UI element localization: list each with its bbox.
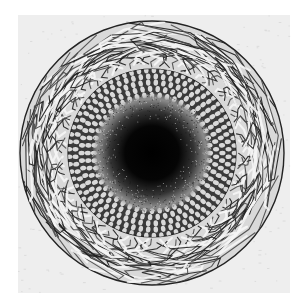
paper-speck (18, 271, 20, 272)
stipple-dot (125, 178, 126, 179)
stipple-dot (172, 178, 173, 179)
stipple-dot (184, 107, 185, 108)
stipple-dot (116, 129, 117, 130)
stipple-dot (190, 136, 191, 137)
stipple-dot (102, 131, 103, 132)
stipple-dot (154, 105, 155, 106)
stipple-dot (168, 207, 169, 208)
stipple-dot (194, 111, 195, 112)
paper-speck (242, 268, 245, 269)
stipple-dot (107, 116, 108, 117)
stipple-dot (206, 129, 207, 130)
stipple-dot (200, 163, 201, 164)
stipple-dot (104, 186, 105, 187)
stipple-dot (134, 199, 135, 200)
stipple-dot (161, 96, 162, 97)
stipple-dot (137, 122, 138, 123)
stipple-dot (200, 179, 201, 180)
stipple-dot (117, 145, 118, 146)
stipple-dot (178, 203, 179, 204)
stipple-dot (99, 129, 100, 130)
stipple-dot (104, 134, 105, 135)
stipple-dot (121, 140, 122, 141)
stipple-dot (113, 116, 114, 117)
stipple-dot (159, 201, 160, 202)
stipple-dot (153, 97, 154, 98)
stipple-dot (122, 128, 123, 129)
stipple-dot (114, 113, 115, 114)
stipple-dot (157, 203, 158, 204)
stipple-dot (181, 106, 182, 107)
stipple-dot (108, 121, 109, 122)
stipple-dot (168, 105, 169, 106)
stipple-dot (124, 116, 125, 117)
stipple-dot (189, 176, 190, 177)
stipple-dot (164, 110, 165, 111)
stipple-dot (134, 210, 135, 211)
stipple-dot (165, 117, 166, 118)
stipple-dot (139, 123, 140, 124)
stipple-dot (113, 155, 114, 156)
stipple-dot (99, 165, 100, 166)
stipple-dot (123, 110, 124, 111)
stipple-dot (145, 211, 146, 212)
stipple-dot (130, 102, 131, 103)
stipple-dot (145, 201, 146, 202)
stipple-dot (181, 116, 182, 117)
stipple-dot (133, 204, 134, 205)
stipple-dot (96, 153, 97, 154)
stipple-dot (111, 158, 112, 159)
stipple-dot (209, 159, 210, 160)
stipple-dot (131, 190, 132, 191)
stipple-dot (112, 148, 113, 149)
stipple-dot (109, 116, 110, 117)
stipple-dot (207, 167, 208, 168)
stipple-dot (106, 134, 107, 135)
stipple-dot (182, 197, 183, 198)
stipple-dot (193, 181, 194, 182)
stipple-dot (116, 157, 117, 158)
stipple-dot (169, 116, 170, 117)
stipple-dot (103, 176, 104, 177)
stipple-dot (134, 196, 135, 197)
stipple-dot (105, 138, 106, 139)
stipple-dot (143, 209, 144, 210)
stipple-dot (188, 130, 189, 131)
stipple-dot (145, 102, 146, 103)
stipple-dot (209, 145, 210, 146)
stipple-dot (144, 210, 145, 211)
stipple-dot (200, 142, 201, 143)
stipple-dot (180, 175, 181, 176)
stipple-dot (190, 132, 191, 133)
stipple-dot (211, 156, 212, 157)
stipple-dot (202, 126, 203, 127)
stipple-dot (166, 119, 167, 120)
stipple-dot (104, 183, 105, 184)
stipple-dot (98, 178, 99, 179)
stipple-dot (204, 130, 205, 131)
stipple-dot (187, 123, 188, 124)
stipple-dot (99, 153, 100, 154)
stipple-dot (176, 119, 177, 120)
stipple-dot (108, 147, 109, 148)
stipple-dot (109, 138, 110, 139)
stipple-dot (159, 110, 160, 111)
stipple-dot (183, 187, 184, 188)
stipple-dot (183, 110, 184, 111)
stipple-dot (146, 198, 147, 199)
stipple-dot (153, 197, 154, 198)
stipple-dot (139, 94, 140, 95)
stipple-dot (111, 162, 112, 163)
stipple-dot (182, 109, 183, 110)
stipple-dot (198, 119, 199, 120)
stipple-dot (115, 139, 116, 140)
stipple-dot (95, 163, 96, 164)
stipple-dot (109, 145, 110, 146)
stipple-dot (203, 153, 204, 154)
stipple-dot (202, 169, 203, 170)
stipple-dot (105, 158, 106, 159)
stipple-dot (180, 205, 181, 206)
stipple-dot (116, 176, 117, 177)
stipple-dot (129, 202, 130, 203)
paper-speck (243, 27, 244, 28)
